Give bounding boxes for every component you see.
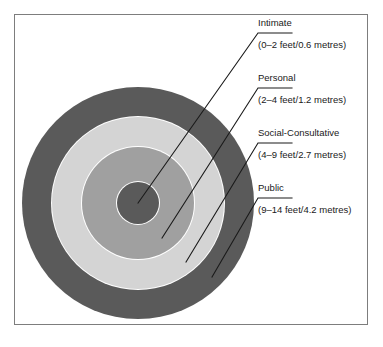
proxemics-diagram: Intimate (0–2 feet/0.6 metres) Personal … (0, 0, 383, 347)
zone-label-personal: Personal (2–4 feet/1.2 metres) (258, 72, 346, 105)
zone-range-intimate: (0–2 feet/0.6 metres) (258, 39, 346, 50)
zone-range-public: (9–14 feet/4.2 metres) (258, 204, 351, 215)
zone-name-intimate: Intimate (258, 17, 346, 28)
zone-name-social-consultative: Social-Consultative (258, 127, 346, 138)
zone-label-intimate: Intimate (0–2 feet/0.6 metres) (258, 17, 346, 50)
zone-labels: Intimate (0–2 feet/0.6 metres) Personal … (0, 0, 383, 347)
zone-range-personal: (2–4 feet/1.2 metres) (258, 94, 346, 105)
zone-name-personal: Personal (258, 72, 346, 83)
zone-name-public: Public (258, 182, 351, 193)
zone-label-social-consultative: Social-Consultative (4–9 feet/2.7 metres… (258, 127, 346, 160)
zone-range-social-consultative: (4–9 feet/2.7 metres) (258, 149, 346, 160)
zone-label-public: Public (9–14 feet/4.2 metres) (258, 182, 351, 215)
